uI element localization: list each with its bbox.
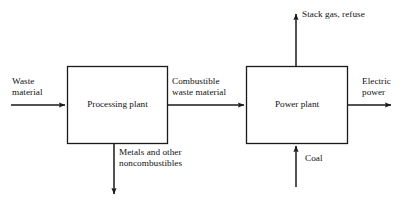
block-flow-diagram: Waste material Processing plant Combusti…: [0, 0, 407, 203]
stream-label-metals-noncombustibles: Metals and other noncombustibles: [119, 147, 182, 169]
stream-label-combustible-waste-material: Combustible waste material: [172, 76, 226, 98]
stream-label-stack-gas-refuse: Stack gas, refuse: [302, 9, 365, 20]
block-label-power-plant: Power plant: [246, 99, 348, 110]
stream-label-coal: Coal: [305, 153, 323, 164]
block-label-processing-plant: Processing plant: [67, 99, 168, 110]
stream-label-waste-material: Waste material: [12, 76, 43, 98]
stream-label-electric-power: Electric power: [362, 76, 391, 98]
